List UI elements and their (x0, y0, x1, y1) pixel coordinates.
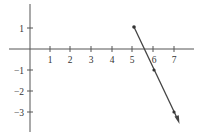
y-tick-label-m2: −2 (14, 87, 24, 97)
x-tick-label-3: 3 (89, 55, 94, 65)
x-tick-label-7: 7 (172, 55, 177, 65)
y-tick-label-m3: −3 (14, 108, 24, 118)
data-line (134, 27, 178, 120)
line-graph: 1 2 3 4 5 6 7 1 −1 −2 −3 (0, 0, 205, 138)
x-tick-label-4: 4 (110, 55, 115, 65)
x-tick-label-5: 5 (130, 55, 135, 65)
x-tick-label-6: 6 (152, 55, 157, 65)
point-6-m1 (152, 68, 155, 71)
y-tick-label-1: 1 (19, 24, 24, 34)
x-tick-label-1: 1 (48, 55, 53, 65)
arrow-head-icon (175, 115, 180, 124)
y-tick-label-m1: −1 (14, 66, 24, 76)
point-5-1 (132, 25, 136, 29)
plot-area: 1 2 3 4 5 6 7 1 −1 −2 −3 (0, 0, 205, 138)
point-7-m3 (172, 110, 175, 113)
x-tick-label-2: 2 (68, 55, 73, 65)
